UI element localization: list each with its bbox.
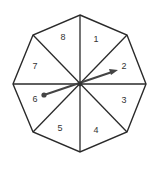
arrow-tail-dot xyxy=(41,92,46,97)
section-label-5: 5 xyxy=(57,123,62,133)
section-label-8: 8 xyxy=(60,32,65,42)
spinner-diagram: 1 2 3 4 5 6 7 8 xyxy=(0,0,154,170)
arrowhead-icon xyxy=(109,69,118,75)
section-label-2: 2 xyxy=(121,61,126,71)
center-pivot xyxy=(78,82,83,87)
section-label-6: 6 xyxy=(32,94,37,104)
section-label-7: 7 xyxy=(32,61,37,71)
section-label-1: 1 xyxy=(93,34,98,44)
section-label-3: 3 xyxy=(121,95,126,105)
section-label-4: 4 xyxy=(93,125,98,135)
